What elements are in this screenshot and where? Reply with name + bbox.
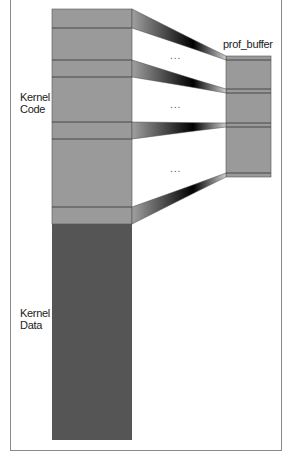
wedge-2 bbox=[132, 60, 226, 93]
mapping-wedges bbox=[132, 9, 226, 224]
kernel-data-region bbox=[52, 224, 132, 440]
kernel-data-label: Kernel Data bbox=[20, 307, 50, 331]
ellipsis-2: ... bbox=[170, 99, 181, 111]
ellipsis-3: ... bbox=[170, 163, 181, 175]
kernel-code-label: Kernel Code bbox=[20, 91, 50, 115]
kernel-code-region bbox=[52, 9, 132, 224]
wedge-4 bbox=[132, 173, 226, 224]
prof-buffer-box bbox=[226, 56, 271, 177]
ellipsis-1: ... bbox=[170, 50, 181, 62]
wedge-3 bbox=[132, 122, 226, 139]
profiling-diagram bbox=[0, 0, 285, 462]
prof-buffer-label: prof_buffer bbox=[223, 38, 273, 50]
